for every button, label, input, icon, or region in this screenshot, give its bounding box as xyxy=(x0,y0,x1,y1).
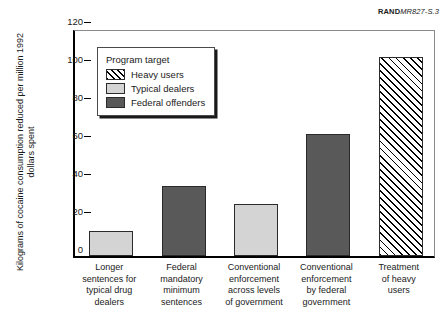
x-axis-label-2: Federal mandatory minimum sentences xyxy=(145,262,217,308)
source-tag: RANDMR827-S.3 xyxy=(378,7,439,16)
x-axis-label-3: Conventional enforcement across levels o… xyxy=(218,262,290,308)
legend-swatch-light xyxy=(106,83,125,94)
legend-swatch-dark xyxy=(106,97,125,108)
legend-title: Program target xyxy=(106,54,205,65)
x-axis-label-1: Longer sentences for typical drug dealer… xyxy=(73,262,145,308)
bar-2 xyxy=(162,186,206,256)
legend-item-label: Typical dealers xyxy=(131,83,194,94)
legend-item-label: Heavy users xyxy=(131,69,184,80)
source-tag-document-id: MR827-S.3 xyxy=(400,7,439,16)
x-axis-label-5: Treatment of heavy users xyxy=(363,262,435,297)
legend-item-3: Federal offenders xyxy=(106,97,205,108)
bar-3 xyxy=(234,204,278,256)
source-tag-brand: RAND xyxy=(378,7,400,16)
x-axis-label-4: Conventional enforcement by federal gove… xyxy=(290,262,362,308)
y-axis-tick-60: 60 xyxy=(45,130,83,142)
y-axis-tick-40: 40 xyxy=(45,168,83,180)
y-axis-tick-80: 80 xyxy=(45,92,83,104)
y-axis-title: Kilograms of cocaine consumption reduced… xyxy=(13,27,39,277)
y-axis-tick-120: 120 xyxy=(45,16,83,28)
legend-swatch-hatch xyxy=(106,69,125,80)
bar-1 xyxy=(89,231,133,256)
y-axis-tick-0: 0 xyxy=(45,244,83,256)
legend-item-1: Heavy users xyxy=(106,69,205,80)
bar-5 xyxy=(379,57,423,256)
chart-legend: Program target Heavy usersTypical dealer… xyxy=(97,47,215,116)
legend-item-2: Typical dealers xyxy=(106,83,205,94)
legend-items: Heavy usersTypical dealersFederal offend… xyxy=(106,69,205,108)
bar-4 xyxy=(306,134,350,256)
legend-item-label: Federal offenders xyxy=(131,97,205,108)
y-axis-tick-20: 20 xyxy=(45,206,83,218)
y-axis-tick-100: 100 xyxy=(45,54,83,66)
